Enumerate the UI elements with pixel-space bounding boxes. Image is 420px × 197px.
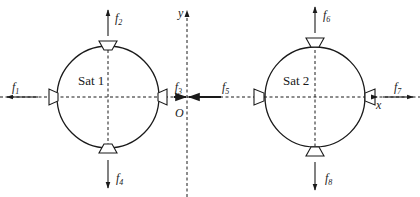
force-f1-label: f1 [12,80,19,96]
y-axis-label: y [177,6,184,20]
origin-label: O [175,106,184,120]
force-f6-label: f6 [323,8,330,24]
satellite-2: Sat 2 x f5 f6 f7 f8 [189,7,413,190]
satellite-2-label: Sat 2 [283,73,309,88]
satellite-1-right-thruster-icon [158,89,167,105]
y-axis-arrow-icon [185,10,190,17]
satellite-1-left-thruster-icon [49,89,58,105]
force-f5-label: f5 [222,80,229,96]
satellite-1-bottom-thruster-icon [99,144,117,153]
satellite-2-left-thruster-icon [254,89,264,105]
satellite-2-top-thruster-icon [306,38,324,47]
force-f8-label: f8 [325,171,332,187]
force-f2-label: f2 [115,11,122,27]
satellite-1-label: Sat 1 [78,73,104,88]
force-f3-label: f3 [175,80,182,96]
satellite-1: Sat 1 f1 f2 f3 f4 [7,10,186,188]
x-axis-label: x [375,98,382,112]
force-f4-label: f4 [116,171,123,187]
force-f7-label: f7 [394,80,402,96]
satellite-2-bottom-thruster-icon [306,147,324,156]
satellite-1-top-thruster-icon [99,41,117,50]
satellite-force-diagram: y O Sat 1 f1 f2 f3 f4 Sat 2 x [0,0,420,197]
